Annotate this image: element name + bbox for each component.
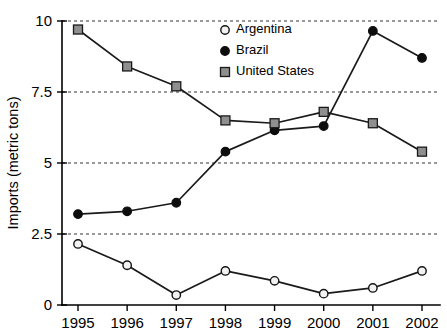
legend-label-brazil: Brazil bbox=[236, 42, 269, 57]
datapoint-brazil-1998 bbox=[221, 147, 230, 156]
datapoint-brazil-1997 bbox=[172, 198, 181, 207]
datapoint-argentina-2002 bbox=[418, 267, 426, 275]
x-tick-label-2000: 2000 bbox=[307, 314, 340, 331]
legend-marker-brazil bbox=[221, 47, 230, 56]
legend-label-argentina: Argentina bbox=[236, 21, 292, 36]
y-tick-label-7.5: 7.5 bbox=[31, 83, 52, 100]
datapoint-brazil-1996 bbox=[123, 207, 132, 216]
datapoint-united-states-2002 bbox=[418, 147, 427, 156]
legend-item-brazil[interactable]: Brazil bbox=[221, 42, 269, 57]
datapoint-united-states-2000 bbox=[319, 107, 328, 116]
datapoint-argentina-2001 bbox=[369, 284, 377, 292]
datapoint-argentina-1997 bbox=[172, 291, 180, 299]
x-tick-label-2002: 2002 bbox=[405, 314, 438, 331]
x-tick-label-1998: 1998 bbox=[209, 314, 242, 331]
datapoint-brazil-2002 bbox=[418, 54, 427, 63]
y-tick-label-5: 5 bbox=[44, 154, 52, 171]
x-tick-label-1999: 1999 bbox=[258, 314, 291, 331]
y-tick-label-2.5: 2.5 bbox=[31, 225, 52, 242]
y-axis-title: Imports (metric tons) bbox=[5, 97, 21, 230]
chart-figure: 02.557.510 19951996199719981999200020012… bbox=[0, 0, 447, 336]
datapoint-united-states-2001 bbox=[368, 119, 377, 128]
x-tick-label-1996: 1996 bbox=[110, 314, 143, 331]
datapoint-united-states-1995 bbox=[74, 25, 83, 34]
x-axis-tick-labels: 19951996199719981999200020012002 bbox=[61, 314, 438, 331]
x-tick-label-2001: 2001 bbox=[356, 314, 389, 331]
datapoint-argentina-2000 bbox=[320, 289, 328, 297]
line-chart: 02.557.510 19951996199719981999200020012… bbox=[0, 0, 447, 336]
series-argentina bbox=[74, 240, 426, 300]
legend-label-united-states: United States bbox=[236, 63, 315, 78]
legend-item-argentina[interactable]: Argentina bbox=[221, 21, 293, 36]
datapoint-brazil-1995 bbox=[74, 210, 83, 219]
datapoint-brazil-2000 bbox=[319, 122, 328, 131]
y-axis-tick-labels: 02.557.510 bbox=[31, 12, 52, 313]
datapoint-argentina-1999 bbox=[270, 277, 278, 285]
datapoint-united-states-1997 bbox=[172, 82, 181, 91]
x-tick-label-1995: 1995 bbox=[61, 314, 94, 331]
legend-marker-argentina bbox=[221, 26, 229, 34]
x-tick-label-1997: 1997 bbox=[160, 314, 193, 331]
datapoint-argentina-1996 bbox=[123, 261, 131, 269]
datapoint-united-states-1996 bbox=[123, 62, 132, 71]
datapoint-united-states-1999 bbox=[270, 119, 279, 128]
datapoint-brazil-2001 bbox=[369, 27, 378, 36]
datapoint-united-states-1998 bbox=[221, 116, 230, 125]
legend-marker-united-states bbox=[221, 68, 230, 77]
datapoint-argentina-1995 bbox=[74, 240, 82, 248]
y-tick-label-0: 0 bbox=[44, 296, 52, 313]
x-axis-ticks bbox=[78, 305, 422, 311]
chart-legend: ArgentinaBrazilUnited States bbox=[221, 21, 315, 78]
legend-item-united-states[interactable]: United States bbox=[221, 63, 315, 78]
y-tick-label-10: 10 bbox=[35, 12, 52, 29]
datapoint-argentina-1998 bbox=[221, 267, 229, 275]
